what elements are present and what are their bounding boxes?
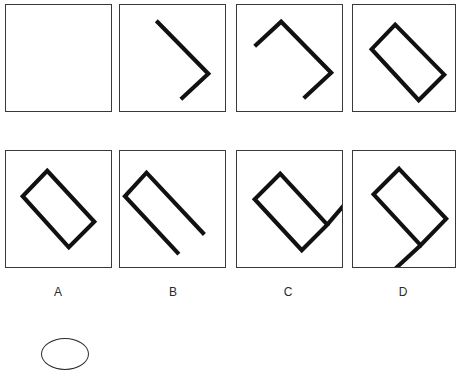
figure-segment-2 — [327, 198, 342, 224]
stimulus-figure-2 — [120, 5, 225, 111]
figure-segment-1 — [374, 169, 447, 245]
option-label-d: D — [383, 285, 423, 299]
figure-segment-1 — [255, 22, 332, 99]
figure-segment-2 — [395, 245, 421, 267]
figure-segment-1 — [156, 21, 208, 100]
figure-segment-1 — [372, 25, 445, 101]
figure-paths — [255, 174, 342, 251]
option-figure-d — [353, 151, 455, 267]
stimulus-panel-4 — [352, 4, 456, 112]
option-figure-b — [120, 151, 225, 267]
option-label-b: B — [153, 285, 193, 299]
option-panel-b[interactable] — [119, 150, 226, 268]
reasoning-item-page: A B C D — [0, 0, 459, 378]
stimulus-figure-4 — [353, 5, 455, 111]
option-panel-c[interactable] — [236, 150, 343, 268]
stimulus-panel-1 — [5, 4, 112, 112]
stimulus-figure-3 — [237, 5, 342, 111]
option-panel-a[interactable] — [5, 150, 112, 268]
option-figure-a — [6, 151, 111, 267]
option-figure-c — [237, 151, 342, 267]
option-label-a: A — [38, 285, 78, 299]
figure-paths — [372, 25, 445, 101]
stimulus-figure-1 — [6, 5, 111, 111]
option-panel-d[interactable] — [352, 150, 456, 268]
figure-segment-1 — [125, 173, 204, 254]
answer-bubble[interactable] — [41, 338, 89, 370]
figure-segment-1 — [23, 171, 95, 248]
figure-paths — [23, 171, 95, 248]
figure-paths — [255, 22, 332, 99]
figure-paths — [374, 169, 447, 267]
stimulus-panel-2 — [119, 4, 226, 112]
option-label-c: C — [268, 285, 308, 299]
stimulus-panel-3 — [236, 4, 343, 112]
figure-paths — [125, 173, 204, 254]
figure-segment-1 — [255, 174, 328, 251]
figure-paths — [156, 21, 208, 100]
